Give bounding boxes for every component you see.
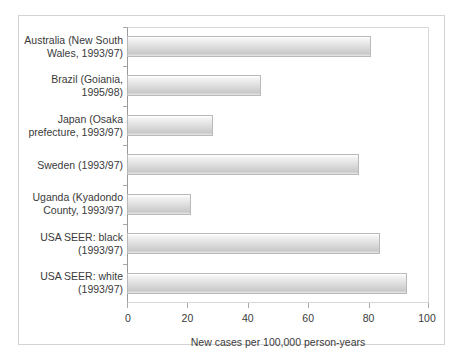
x-axis-tick-label: 100 — [418, 312, 436, 324]
bar — [127, 273, 407, 294]
y-axis-label: Japan (Osaka prefecture, 1993/97) — [0, 113, 123, 139]
x-axis-tick — [248, 303, 249, 308]
bar-row: USA SEER: white (1993/97) — [127, 264, 429, 303]
y-axis-tick — [123, 27, 127, 28]
x-axis-tick — [428, 303, 429, 308]
x-axis-tick-label: 0 — [125, 312, 131, 324]
bar — [127, 115, 213, 136]
x-axis-tick — [127, 303, 128, 308]
y-axis-label: Australia (New South Wales, 1993/97) — [0, 34, 123, 60]
x-axis-title: New cases per 100,000 person-years — [127, 336, 429, 348]
y-axis-label: USA SEER: black (1993/97) — [0, 231, 123, 257]
bar — [127, 233, 380, 254]
x-axis-tick — [369, 303, 370, 308]
y-axis-tick — [123, 264, 127, 265]
bar-row: Australia (New South Wales, 1993/97) — [127, 27, 429, 66]
bar-row: Sweden (1993/97) — [127, 145, 429, 184]
bar — [127, 75, 261, 96]
y-axis-label: Sweden (1993/97) — [0, 158, 123, 171]
y-axis-tick — [123, 185, 127, 186]
x-axis-tick-label: 60 — [302, 312, 314, 324]
plot-area: Australia (New South Wales, 1993/97) Bra… — [127, 27, 429, 303]
bar-row: USA SEER: black (1993/97) — [127, 224, 429, 263]
x-axis-tick — [308, 303, 309, 308]
y-axis-tick — [123, 224, 127, 225]
y-axis-label: Brazil (Goiania, 1995/98) — [0, 73, 123, 99]
y-axis-tick — [123, 106, 127, 107]
x-axis-tick — [187, 303, 188, 308]
bar — [127, 154, 359, 175]
y-axis-label: USA SEER: white (1993/97) — [0, 270, 123, 296]
x-axis-tick-label: 20 — [182, 312, 194, 324]
bar-row: Japan (Osaka prefecture, 1993/97) — [127, 106, 429, 145]
y-axis-label: Uganda (Kyadondo County, 1993/97) — [0, 191, 123, 217]
y-axis-tick — [123, 66, 127, 67]
bar-row: Brazil (Goiania, 1995/98) — [127, 66, 429, 105]
chart-frame: Australia (New South Wales, 1993/97) Bra… — [18, 15, 445, 345]
x-axis-tick-label: 80 — [363, 312, 375, 324]
x-axis-tick-label: 40 — [242, 312, 254, 324]
bar — [127, 36, 371, 57]
bar-row: Uganda (Kyadondo County, 1993/97) — [127, 185, 429, 224]
bar — [127, 194, 191, 215]
y-axis-tick — [123, 145, 127, 146]
